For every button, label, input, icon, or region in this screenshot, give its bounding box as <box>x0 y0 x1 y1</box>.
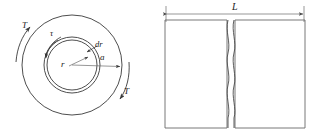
shear-stress-arc-arrow-inner <box>46 40 58 58</box>
side-view-drawing <box>155 0 315 140</box>
figure-root: T T τ r dr a <box>0 0 315 140</box>
shaft-body-left <box>165 20 227 128</box>
length-dimension-label: L <box>232 2 238 12</box>
shear-stress-label: τ <box>50 29 53 38</box>
shaft-side-elevation-panel: L <box>155 0 315 140</box>
torque-label-lower: T <box>124 87 129 96</box>
shaft-cross-section-panel: T T τ r dr a <box>0 0 155 140</box>
element-thickness-label: dr <box>95 40 103 49</box>
torque-label-upper: T <box>22 21 27 30</box>
radius-label: r <box>61 60 65 69</box>
outer-radius-label: a <box>100 53 105 62</box>
radius-dimension-arrow <box>69 57 88 66</box>
outer-radius-dimension-arrow <box>72 65 120 67</box>
shaft-body-right <box>235 20 305 128</box>
